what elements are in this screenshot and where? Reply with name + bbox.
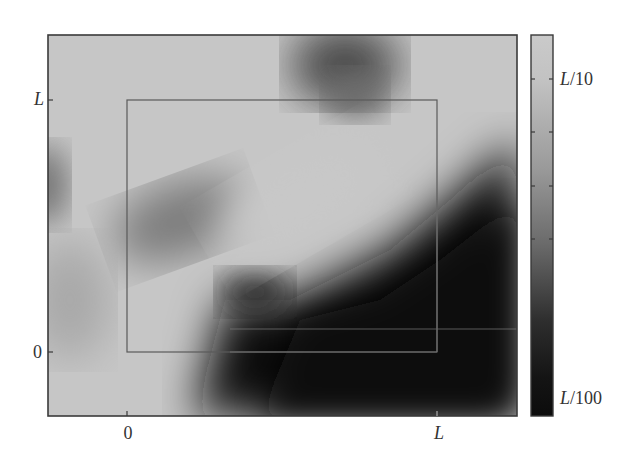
y-label-0-text: 0: [33, 342, 42, 362]
heatmap-canvas: [0, 0, 643, 455]
colorbar-label-max: L/10: [560, 70, 593, 88]
y-label-L-text: L: [34, 89, 44, 109]
heatmap-field: [23, 25, 580, 416]
x-label-L-text: L: [434, 423, 444, 443]
heatmap-figure: L 0 0 L L/10 L/100: [0, 0, 643, 455]
colorbar-max-rest: /10: [570, 69, 593, 89]
y-tick-label-0: 0: [12, 343, 42, 361]
colorbar-min-italic: L: [560, 388, 570, 408]
x-tick-label-L: L: [424, 424, 454, 442]
y-tick-label-L: L: [14, 90, 44, 108]
x-tick-label-0: 0: [113, 424, 143, 442]
colorbar-gradient: [531, 35, 553, 416]
x-label-0-text: 0: [124, 423, 133, 443]
colorbar-label-min: L/100: [560, 389, 602, 407]
colorbar: [531, 35, 553, 416]
colorbar-max-italic: L: [560, 69, 570, 89]
colorbar-min-rest: /100: [570, 388, 602, 408]
